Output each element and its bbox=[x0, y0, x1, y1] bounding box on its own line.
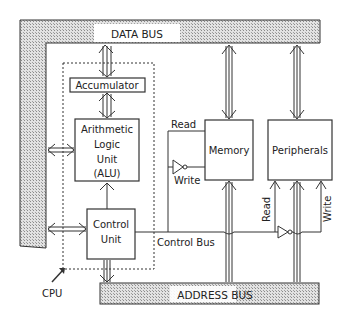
alu-label-4: (ALU) bbox=[93, 168, 120, 179]
data-bus-label: DATA BUS bbox=[111, 28, 163, 40]
alu-label-1: Arithmetic bbox=[81, 124, 133, 135]
control-bus-label: Control Bus bbox=[157, 237, 215, 248]
alu-label-3: Unit bbox=[97, 154, 117, 165]
control-unit-label-2: Unit bbox=[101, 234, 121, 245]
peripherals-write-label: Write bbox=[322, 196, 333, 222]
peripherals-label: Peripherals bbox=[272, 145, 328, 156]
cpu-pointer bbox=[52, 270, 63, 282]
alu-label-2: Logic bbox=[94, 139, 120, 150]
memory-label: Memory bbox=[209, 145, 250, 156]
control-unit-label-1: Control bbox=[93, 219, 129, 230]
peripherals-read-label: Read bbox=[261, 197, 272, 222]
address-bus-label: ADDRESS BUS bbox=[177, 289, 253, 301]
accumulator-label: Accumulator bbox=[75, 80, 139, 91]
cpu-label: CPU bbox=[42, 288, 62, 299]
memory-write-label: Write bbox=[174, 175, 200, 186]
cpu-architecture-diagram: DATA BUS ADDRESS BUS Accumulator Arithme… bbox=[0, 0, 347, 324]
memory-read-label: Read bbox=[171, 119, 196, 130]
